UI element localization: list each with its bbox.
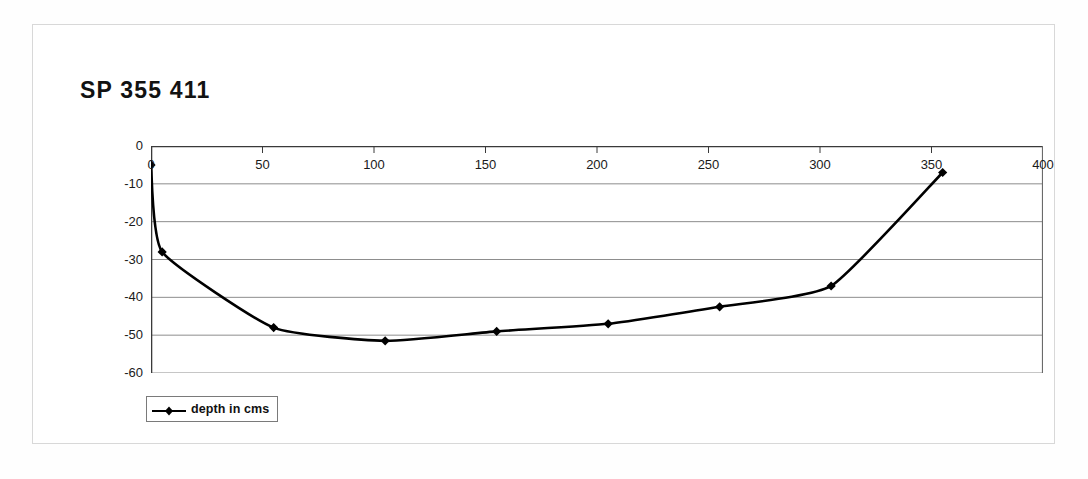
data-point-markers-group: [151, 160, 947, 345]
legend-marker-icon: [152, 403, 186, 415]
x-tick-label: 100: [349, 157, 399, 172]
x-tick-label: 50: [238, 157, 288, 172]
chart-plot-area: 0-10-20-30-40-50-60 05010015020025030035…: [151, 146, 1043, 373]
data-series-line: [151, 165, 943, 341]
x-tick-label: 150: [461, 157, 511, 172]
scanned-page-frame: SP 355 411 0-10-20-30-40-50-60 050100150…: [32, 24, 1055, 444]
y-tick-label: 0: [99, 138, 143, 153]
x-tick-label: 0: [126, 157, 176, 172]
y-tick-label: -20: [99, 214, 143, 229]
y-tick-label: -50: [99, 327, 143, 342]
data-point-marker: [492, 327, 501, 336]
y-tick-label: -10: [99, 176, 143, 191]
x-tick-label: 400: [1018, 157, 1068, 172]
y-tick-label: -30: [99, 252, 143, 267]
legend-label: depth in cms: [191, 402, 269, 416]
x-tick-label: 200: [572, 157, 622, 172]
data-point-marker: [604, 319, 613, 328]
page-title: SP 355 411: [80, 77, 211, 104]
data-point-marker: [269, 323, 278, 332]
y-tick-label: -60: [99, 365, 143, 380]
x-tick-label: 300: [795, 157, 845, 172]
page-canvas: SP 355 411 0-10-20-30-40-50-60 050100150…: [0, 0, 1088, 479]
chart-svg: [151, 146, 1043, 373]
x-tick-label: 250: [684, 157, 734, 172]
x-tick-label: 350: [907, 157, 957, 172]
gridlines-group: [151, 146, 1043, 373]
y-tick-label: -40: [99, 289, 143, 304]
data-point-marker: [715, 302, 724, 311]
data-point-marker: [381, 336, 390, 345]
chart-legend: depth in cms: [146, 396, 278, 422]
